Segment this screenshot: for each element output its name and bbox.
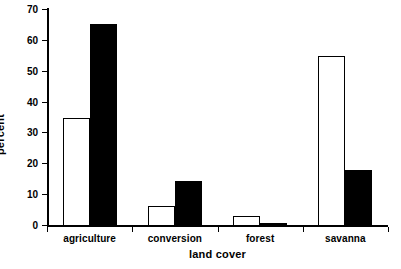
bar-forest-open	[233, 216, 260, 226]
y-tick-label: 70	[14, 4, 38, 15]
y-tick-label: 40	[14, 96, 38, 107]
x-tick-mark	[303, 227, 304, 232]
bar-agriculture-open	[63, 118, 90, 226]
bar-conversion-open	[148, 206, 175, 226]
bar-chart-figure: percent 010203040506070 agricultureconve…	[0, 0, 401, 269]
x-tick-mark	[47, 227, 48, 232]
bar-agriculture-solid	[90, 24, 117, 226]
y-tick-label: 60	[14, 34, 38, 45]
x-tick-mark	[132, 227, 133, 232]
x-tick-mark	[218, 227, 219, 232]
x-axis-title: land cover	[47, 248, 388, 260]
y-tick-label: 10	[14, 189, 38, 200]
category-label-conversion: conversion	[148, 233, 202, 244]
category-label-agriculture: agriculture	[63, 233, 116, 244]
bar-savanna-open	[318, 56, 345, 226]
y-tick-label: 50	[14, 65, 38, 76]
bar-forest-solid	[260, 223, 287, 226]
x-tick-mark	[388, 227, 389, 232]
plot-area	[47, 9, 388, 226]
y-tick-label: 0	[14, 220, 38, 231]
bar-conversion-solid	[175, 181, 202, 226]
category-label-savanna: savanna	[325, 233, 366, 244]
bar-savanna-solid	[345, 170, 372, 226]
y-tick-label: 20	[14, 158, 38, 169]
y-tick-label: 30	[14, 127, 38, 138]
category-label-forest: forest	[246, 233, 274, 244]
